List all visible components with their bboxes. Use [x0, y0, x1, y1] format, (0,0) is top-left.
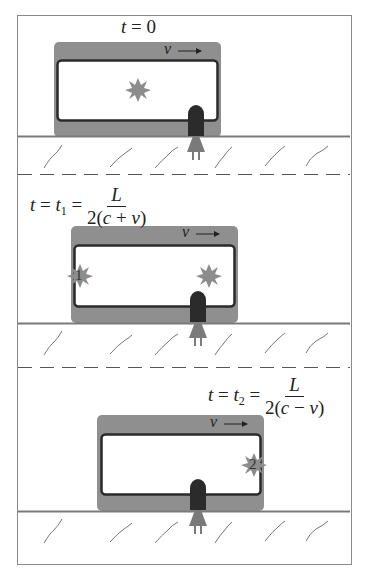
ground-hatching	[44, 331, 328, 355]
equals-sign: =	[250, 384, 261, 405]
train-car-window	[102, 435, 261, 495]
ground-hatching	[44, 519, 328, 543]
flash-label-1: 1	[75, 267, 83, 284]
fraction: L 2(c − v)	[265, 374, 324, 419]
time-variable: t	[208, 384, 213, 405]
observer-person-icon	[187, 105, 205, 160]
panel-1	[18, 42, 350, 175]
time-label-panel-2: t = t1 = L 2(c + v)	[30, 184, 146, 229]
velocity-label: v	[164, 40, 171, 58]
equals-sign: =	[72, 194, 83, 215]
observer-person-icon	[189, 291, 207, 346]
time-subscript: 1	[61, 204, 67, 218]
fraction-numerator: L	[285, 374, 304, 397]
panel-2	[18, 226, 350, 368]
velocity-label: v	[210, 413, 217, 431]
flash-label-2: 2	[249, 456, 257, 473]
time-variable: t	[30, 194, 35, 215]
time-subscript: 2	[239, 394, 245, 408]
time-label-panel-3: t = t2 = L 2(c − v)	[208, 374, 324, 419]
time-variable: t	[121, 16, 126, 37]
time-value: = 0	[131, 16, 156, 37]
diagram-canvas	[0, 0, 368, 580]
time-label-panel-1: t = 0	[121, 16, 156, 38]
fraction: L 2(c + v)	[87, 184, 146, 229]
fraction-numerator: L	[107, 184, 126, 207]
velocity-label: v	[182, 223, 189, 241]
fraction-denominator: 2(c − v)	[265, 397, 324, 419]
fraction-denominator: 2(c + v)	[87, 207, 146, 229]
observer-person-icon	[189, 479, 207, 534]
ground-hatching	[44, 145, 328, 168]
panel-3	[18, 415, 350, 543]
